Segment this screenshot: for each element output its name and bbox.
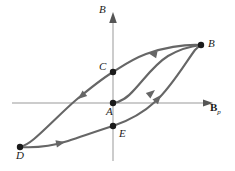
curves-group [20,45,201,147]
y-axis-arrowhead [109,12,117,23]
descending-branch [20,45,201,147]
point-label-D: D [16,150,24,161]
points-group [17,42,204,150]
point-C-dot [110,69,116,75]
ascending-branch [20,45,201,147]
x-axis-label: Bp [210,102,221,116]
axes-group [12,12,213,161]
point-label-C: C [99,61,106,72]
point-E-dot [110,123,116,129]
point-label-B: B [208,38,215,49]
point-label-A: A [106,106,113,117]
y-axis-label: B [99,4,106,15]
arrow-initial-curve-up-right [146,87,158,98]
hysteresis-loop-figure: B Bp A B C D E [0,0,235,171]
point-B-dot [198,42,204,48]
direction-arrows-group [55,49,163,147]
hysteresis-loop-svg [0,0,235,171]
point-label-E: E [119,128,126,139]
x-axis-label-subscript: p [217,108,221,116]
